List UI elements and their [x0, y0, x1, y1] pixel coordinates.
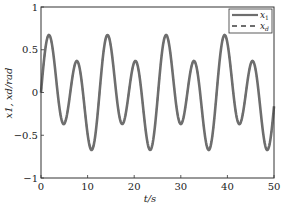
x-axis-label: t/s	[144, 193, 157, 204]
plot-curves	[41, 35, 274, 150]
x-tick-label: 50	[268, 181, 281, 192]
legend: x1 xd	[229, 9, 272, 33]
y-tick-label: 1	[32, 2, 38, 13]
y-tick-label: −1	[23, 173, 38, 184]
y-axis-label: x1, xd/rad	[3, 68, 14, 119]
x-tick-label: 10	[81, 181, 94, 192]
x-tick-label: 30	[174, 181, 187, 192]
y-tick-label: −0.5	[14, 130, 38, 141]
y-tick-label: 0	[32, 87, 38, 98]
x-tick-label: 20	[128, 181, 141, 192]
line-chart: 01020304050 10.50−0.5−1 t/s x1, xd/rad x…	[0, 0, 282, 210]
series-x1	[41, 35, 274, 150]
y-axis-ticks: 10.50−0.5−1	[14, 2, 44, 184]
svg-text:x1, xd/rad: x1, xd/rad	[3, 68, 14, 119]
y-tick-label: 0.5	[22, 44, 38, 55]
x-tick-label: 40	[221, 181, 234, 192]
x-tick-label: 0	[38, 181, 44, 192]
